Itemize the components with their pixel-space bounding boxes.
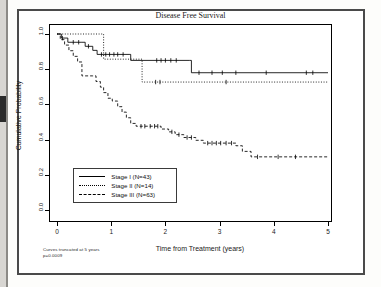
x-tick-label: 4: [272, 228, 276, 235]
chart-title: Disease Free Survival: [49, 11, 332, 20]
y-tick-label: 0.6: [19, 98, 45, 104]
y-tick-mark: [45, 210, 49, 211]
y-tick-label: 0.4: [19, 134, 45, 140]
scan-edge-line: [6, 0, 8, 287]
y-tick-mark: [45, 69, 49, 70]
x-tick-label: 3: [218, 228, 222, 235]
x-tick-mark: [220, 222, 221, 226]
x-tick-mark: [165, 222, 166, 226]
footnote-line-2: p=0.0009: [43, 253, 100, 259]
legend-key-dashed: [79, 194, 105, 195]
legend: Stage I (N=43)Stage II (N=14)Stage III (…: [73, 168, 177, 203]
legend-key-solid: [79, 176, 105, 177]
legend-label: Stage II (N=14): [111, 182, 153, 189]
legend-label: Stage I (N=43): [111, 173, 151, 180]
x-tick-mark: [328, 222, 329, 226]
y-axis-label: Cumulative Probability: [15, 36, 22, 196]
legend-key-dotted: [79, 185, 105, 186]
y-tick-mark: [45, 175, 49, 176]
figure-page: Disease Free Survival 0123450.00.20.40.6…: [0, 0, 381, 287]
x-axis-label: Time from Treatment (years): [110, 245, 290, 252]
y-tick-label: 1.0: [19, 28, 45, 34]
y-tick-mark: [45, 104, 49, 105]
y-tick-mark: [45, 140, 49, 141]
x-tick-label: 1: [109, 228, 113, 235]
legend-item-3: Stage III (N=63): [74, 190, 176, 199]
plot-area: 0123450.00.20.40.60.81.0 Stage I (N=43)S…: [49, 24, 332, 222]
y-tick-label: 0.8: [19, 63, 45, 69]
x-tick-mark: [57, 222, 58, 226]
legend-label: Stage III (N=63): [111, 191, 155, 198]
x-tick-label: 2: [164, 228, 168, 235]
footnote: Curves truncated at 5 years p=0.0009: [43, 247, 100, 259]
y-tick-label: 0.2: [19, 169, 45, 175]
x-tick-label: 0: [55, 228, 59, 235]
x-tick-mark: [111, 222, 112, 226]
y-tick-label: 0.0: [19, 204, 45, 210]
legend-item-2: Stage II (N=14): [74, 181, 176, 190]
y-tick-mark: [45, 34, 49, 35]
legend-item-1: Stage I (N=43): [74, 172, 176, 181]
x-tick-label: 5: [326, 228, 330, 235]
x-tick-mark: [274, 222, 275, 226]
